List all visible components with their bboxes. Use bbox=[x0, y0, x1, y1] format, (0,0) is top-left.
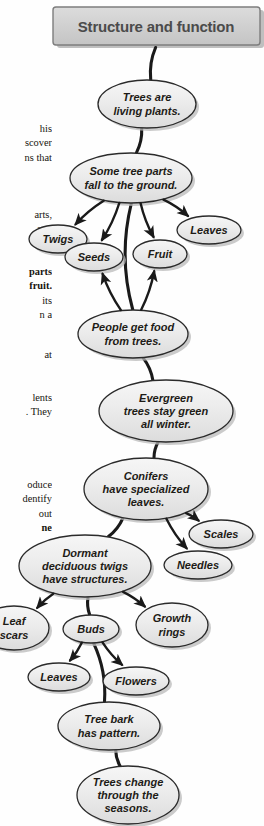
node-conifers[interactable]: Conifershave specializedleaves. bbox=[84, 458, 208, 520]
node-label-buds: Buds bbox=[77, 623, 105, 635]
connector-conifers-to-scales bbox=[186, 513, 198, 520]
node-seeds[interactable]: Seeds bbox=[65, 243, 123, 271]
node-trees-change[interactable]: Trees changethrough theseasons. bbox=[77, 766, 179, 824]
banner-group: Structure and function bbox=[53, 7, 264, 48]
node-label-line: Seeds bbox=[78, 251, 110, 263]
node-tree-bark[interactable]: Tree barkhas pattern. bbox=[58, 702, 160, 750]
node-label-line: Trees change bbox=[93, 776, 164, 788]
node-label-line: Flowers bbox=[115, 675, 157, 687]
node-dormant-twigs[interactable]: Dormantdeciduous twigshave structures. bbox=[19, 535, 151, 597]
page-canvas: hisscoverns thatarts,artspartsfruit.itsn… bbox=[0, 0, 264, 826]
node-label-trees-living: Trees areliving plants. bbox=[113, 91, 180, 116]
node-label-line: seasons. bbox=[104, 802, 151, 814]
node-label-line: deciduous twigs bbox=[42, 560, 128, 572]
node-label-flowers: Flowers bbox=[115, 675, 157, 687]
node-label-line: from trees. bbox=[105, 335, 162, 347]
node-needles[interactable]: Needles bbox=[164, 551, 232, 579]
node-label-line: rings bbox=[159, 626, 186, 638]
node-label-line: People get food bbox=[92, 321, 175, 333]
node-label-tree-parts-fall: Some tree partsfall to the ground. bbox=[85, 165, 178, 190]
connector-conifers-to-needles bbox=[166, 519, 186, 549]
node-label-leaves-bottom: Leaves bbox=[40, 671, 77, 683]
node-scales[interactable]: Scales bbox=[189, 520, 253, 548]
node-label-line: leaves. bbox=[128, 496, 165, 508]
node-label-needles: Needles bbox=[177, 559, 219, 571]
connector-dormant-twigs-to-buds bbox=[88, 598, 90, 615]
node-leaves-top[interactable]: Leaves bbox=[177, 216, 241, 244]
node-label-line: Tree bark bbox=[84, 713, 134, 725]
node-evergreen[interactable]: Evergreentrees stay greenall winter. bbox=[99, 380, 233, 442]
node-label-tree-bark: Tree barkhas pattern. bbox=[78, 713, 140, 738]
node-label-leaves-top: Leaves bbox=[190, 224, 227, 236]
connector-buds-to-leaves-bottom bbox=[70, 643, 82, 661]
connector-buds-to-flowers bbox=[103, 642, 123, 665]
node-layer: Trees areliving plants.Some tree partsfa… bbox=[0, 80, 253, 824]
connector-dormant-twigs-to-growth-rings bbox=[123, 592, 145, 607]
node-label-line: Buds bbox=[77, 623, 105, 635]
node-label-line: have specialized bbox=[103, 483, 190, 495]
connector-dormant-twigs-to-leaf-scars bbox=[37, 594, 53, 608]
node-label-line: Twigs bbox=[43, 233, 74, 245]
node-label-line: Dormant bbox=[62, 547, 109, 559]
node-label-leaf-scars: Leafscars bbox=[0, 615, 28, 640]
node-label-line: Some tree parts bbox=[89, 165, 172, 177]
node-label-line: trees stay green bbox=[124, 405, 209, 417]
connector-tree-parts-fall-to-people-food bbox=[125, 204, 133, 310]
node-people-food[interactable]: People get foodfrom trees. bbox=[78, 310, 188, 358]
connector-people-food-to-evergreen bbox=[143, 358, 153, 380]
node-label-line: scars bbox=[0, 629, 28, 641]
node-label-line: living plants. bbox=[113, 105, 180, 117]
connector-tree-parts-fall-to-leaves-top bbox=[164, 200, 188, 216]
node-label-line: have structures. bbox=[43, 573, 128, 585]
connector-people-food-to-seeds bbox=[103, 274, 121, 310]
connector-banner-to-trees-living bbox=[150, 48, 155, 80]
node-fruit[interactable]: Fruit bbox=[133, 240, 187, 268]
node-label-line: Leaves bbox=[190, 224, 227, 236]
concept-map-svg: Structure and function Trees areliving p… bbox=[0, 0, 264, 826]
node-buds[interactable]: Buds bbox=[63, 615, 119, 643]
page-title: Structure and function bbox=[78, 18, 234, 35]
connector-buds-to-tree-bark bbox=[94, 643, 105, 701]
connector-evergreen-to-conifers bbox=[154, 442, 158, 458]
node-label-line: Evergreen bbox=[139, 392, 193, 404]
connector-tree-parts-fall-to-seeds bbox=[102, 203, 119, 240]
connector-conifers-to-dormant-twigs bbox=[108, 518, 122, 536]
node-label-fruit: Fruit bbox=[148, 248, 174, 260]
node-tree-parts-fall[interactable]: Some tree partsfall to the ground. bbox=[70, 153, 192, 203]
node-growth-rings[interactable]: Growthrings bbox=[136, 603, 208, 647]
node-label-seeds: Seeds bbox=[78, 251, 110, 263]
node-label-line: Conifers bbox=[124, 470, 169, 482]
node-label-line: Needles bbox=[177, 559, 219, 571]
connector-trees-living-to-tree-parts-fall bbox=[137, 128, 142, 152]
node-label-line: Trees are bbox=[123, 91, 172, 103]
connector-tree-parts-fall-to-twigs bbox=[76, 201, 104, 225]
node-label-line: Leaf bbox=[3, 615, 27, 627]
concept-map-diagram: Structure and function Trees areliving p… bbox=[0, 0, 264, 826]
node-label-line: has pattern. bbox=[78, 727, 140, 739]
node-label-line: Leaves bbox=[40, 671, 77, 683]
node-label-twigs: Twigs bbox=[43, 233, 74, 245]
node-label-line: Growth bbox=[153, 612, 192, 624]
node-trees-living[interactable]: Trees areliving plants. bbox=[98, 80, 196, 128]
node-label-line: all winter. bbox=[141, 418, 191, 430]
connector-tree-parts-fall-to-fruit bbox=[141, 203, 154, 237]
node-label-scales: Scales bbox=[204, 528, 239, 540]
node-label-line: fall to the ground. bbox=[85, 179, 178, 191]
node-flowers[interactable]: Flowers bbox=[103, 667, 169, 695]
node-label-line: Fruit bbox=[148, 248, 174, 260]
node-label-line: through the bbox=[97, 789, 158, 801]
node-label-line: Scales bbox=[204, 528, 239, 540]
connector-people-food-to-fruit bbox=[141, 271, 154, 310]
node-leaves-bottom[interactable]: Leaves bbox=[28, 663, 90, 691]
